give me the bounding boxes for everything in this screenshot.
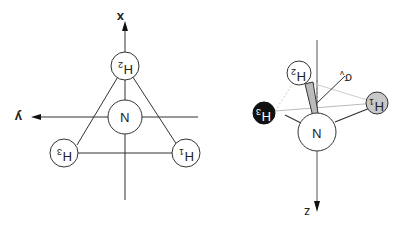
- svg-text:H: H: [297, 69, 306, 84]
- atom-n-label: N: [120, 110, 129, 125]
- svg-text:H: H: [185, 149, 194, 164]
- svg-text:3: 3: [57, 147, 62, 157]
- svg-text:H: H: [375, 99, 384, 114]
- right-view: N H 2 H 3 H 1 σ v z: [253, 40, 388, 219]
- plane-line: [275, 103, 377, 111]
- plane-line: [275, 80, 295, 111]
- left-view: x y N H 2 H 3 H 1: [14, 10, 200, 200]
- svg-text:H: H: [63, 149, 72, 164]
- svg-text:3: 3: [256, 107, 261, 117]
- y-axis-label: y: [14, 110, 22, 125]
- svg-text:1: 1: [369, 97, 374, 107]
- svg-text:2: 2: [291, 67, 296, 77]
- svg-text:σ: σ: [344, 71, 352, 85]
- z-axis-arrow-icon: [314, 201, 320, 212]
- svg-text:H: H: [124, 62, 133, 77]
- svg-text:v: v: [340, 69, 344, 78]
- svg-text:H: H: [262, 109, 271, 124]
- svg-text:2: 2: [118, 60, 123, 70]
- sigma-v-line: [316, 76, 345, 104]
- svg-text:1: 1: [179, 147, 184, 157]
- x-axis-label: x: [116, 10, 124, 25]
- ammonia-diagram: x y N H 2 H 3 H 1: [0, 0, 407, 228]
- sigma-v-label: σ v: [340, 69, 352, 85]
- atom-n-3d-label: N: [312, 126, 321, 141]
- bond-line: [335, 108, 370, 122]
- wedge-bond: [305, 82, 318, 117]
- y-axis-arrow-icon: [31, 114, 41, 120]
- z-axis-label: z: [304, 205, 310, 219]
